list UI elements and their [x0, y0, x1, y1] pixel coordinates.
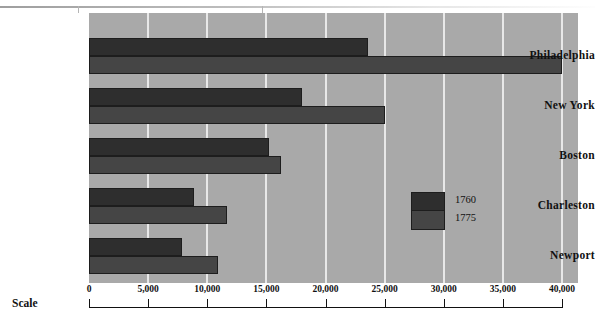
bar-group — [89, 38, 578, 74]
x-axis: Scale 05,00010,00015,00020,00025,00030,0… — [0, 283, 595, 326]
bar-new-york-1760 — [89, 88, 302, 106]
bar-group — [89, 88, 578, 124]
axis-tick-label: 15,000 — [253, 284, 279, 294]
bar-boston-1775 — [89, 156, 281, 174]
category-label-philadelphia: Philadelphia — [511, 49, 595, 61]
bar-charleston-1775 — [89, 206, 227, 224]
axis-tick-label: 10,000 — [194, 284, 220, 294]
axis-tick — [326, 299, 327, 308]
population-bar-chart: PhiladelphiaNew YorkBostonCharlestonNewp… — [0, 0, 595, 326]
category-label-boston: Boston — [511, 149, 595, 161]
bar-philadelphia-1775 — [89, 56, 562, 74]
axis-tick — [385, 299, 386, 308]
axis-tick-label: 30,000 — [431, 284, 457, 294]
bar-newport-1760 — [89, 238, 182, 256]
axis-tick — [89, 299, 90, 308]
bar-group — [89, 138, 578, 174]
category-label-charleston: Charleston — [511, 199, 595, 211]
axis-tick-label: 40,000 — [549, 284, 575, 294]
axis-tick — [148, 299, 149, 308]
bar-new-york-1775 — [89, 106, 385, 124]
bar-boston-1760 — [89, 138, 269, 156]
axis-tick-label: 25,000 — [372, 284, 398, 294]
scan-artifact-line — [0, 6, 595, 8]
bar-charleston-1760 — [89, 188, 194, 206]
legend-swatch-1760 — [412, 193, 444, 211]
axis-tick — [207, 299, 208, 308]
bar-philadelphia-1760 — [89, 38, 368, 56]
category-label-new-york: New York — [511, 99, 595, 111]
bar-group — [89, 188, 578, 224]
scan-artifact-tick — [262, 6, 263, 13]
axis-tick — [266, 299, 267, 308]
legend-swatch — [411, 192, 445, 230]
axis-tick — [562, 299, 563, 308]
axis-tick-label: 5,000 — [137, 284, 158, 294]
axis-tick-label: 35,000 — [490, 284, 516, 294]
axis-tick — [503, 299, 504, 308]
category-label-newport: Newport — [511, 249, 595, 261]
chart-legend: 1760 1775 — [411, 192, 495, 232]
axis-tick-label: 0 — [87, 284, 92, 294]
plot-area — [89, 13, 578, 283]
axis-tick — [444, 299, 445, 308]
legend-label-1760: 1760 — [455, 194, 476, 205]
axis-tick-label: 20,000 — [312, 284, 338, 294]
bar-group — [89, 238, 578, 274]
scale-axis-label: Scale — [12, 297, 38, 309]
scan-artifact-tick — [78, 6, 79, 13]
bar-newport-1775 — [89, 256, 218, 274]
legend-label-1775: 1775 — [455, 212, 476, 223]
